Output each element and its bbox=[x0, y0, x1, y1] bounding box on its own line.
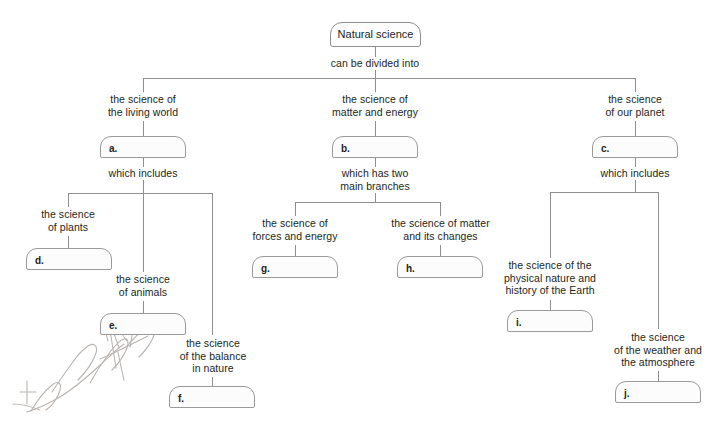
branch-1-connector-label: which includes bbox=[98, 167, 188, 180]
branch-1-child-1-prompt: the science of plants bbox=[23, 208, 113, 233]
answer-box-f[interactable]: f. bbox=[169, 386, 255, 408]
branch-3-child-2-prompt: the science of the weather and the atmos… bbox=[601, 331, 715, 369]
branch-3-child-1-prompt: the science of the physical nature and h… bbox=[494, 259, 606, 297]
answer-letter-b: b. bbox=[341, 143, 350, 155]
branch-1-child-2-prompt: the science of animals bbox=[98, 273, 188, 298]
branch-3-prompt: the science of our planet bbox=[585, 93, 685, 118]
answer-letter-e: e. bbox=[109, 320, 117, 332]
answer-letter-j: j. bbox=[624, 388, 630, 400]
branch-2-prompt: the science of matter and energy bbox=[315, 93, 435, 118]
branch-2-child-1-prompt: the science of forces and energy bbox=[245, 217, 345, 242]
answer-box-h[interactable]: h. bbox=[397, 256, 483, 278]
scribble-stroke-crossbar bbox=[100, 336, 148, 359]
branch-1-child-3-prompt: the science of the balance in nature bbox=[167, 337, 259, 375]
branch-3-connector-label: which includes bbox=[590, 167, 680, 180]
scribble-stroke-v bbox=[90, 339, 128, 383]
root-connector-label: can be divided into bbox=[315, 57, 435, 70]
answer-box-a[interactable]: a. bbox=[100, 136, 186, 158]
answer-box-d[interactable]: d. bbox=[26, 248, 112, 270]
answer-letter-f: f. bbox=[178, 393, 184, 405]
scribble-stroke-desc1 bbox=[110, 330, 116, 368]
answer-letter-a: a. bbox=[109, 143, 117, 155]
scribble-stroke-sweep bbox=[27, 344, 124, 412]
root-title-box: Natural science bbox=[330, 22, 421, 47]
answer-box-g[interactable]: g. bbox=[252, 256, 338, 278]
answer-box-c[interactable]: c. bbox=[592, 136, 678, 158]
answer-letter-i: i. bbox=[516, 317, 522, 329]
root-title-label: Natural science bbox=[338, 28, 414, 41]
answer-box-b[interactable]: b. bbox=[332, 136, 418, 158]
branch-1-prompt: the science of the living world bbox=[93, 93, 193, 118]
answer-letter-g: g. bbox=[261, 263, 270, 275]
scribble-stroke-l bbox=[31, 383, 61, 411]
answer-box-j[interactable]: j. bbox=[615, 381, 701, 403]
answer-letter-c: c. bbox=[601, 143, 609, 155]
scribble-stroke-desc2 bbox=[118, 352, 124, 380]
scribble-stroke-o bbox=[52, 344, 97, 392]
answer-letter-h: h. bbox=[406, 263, 415, 275]
branch-2-connector-label: which has two main branches bbox=[325, 167, 425, 192]
answer-box-i[interactable]: i. bbox=[507, 310, 593, 332]
concept-map-diagram: Natural science can be divided into the … bbox=[0, 0, 721, 429]
answer-box-e[interactable]: e. bbox=[100, 313, 186, 335]
scribble-stroke-base bbox=[13, 404, 40, 410]
answer-letter-d: d. bbox=[35, 255, 44, 267]
branch-2-child-2-prompt: the science of matter and its changes bbox=[383, 217, 498, 242]
